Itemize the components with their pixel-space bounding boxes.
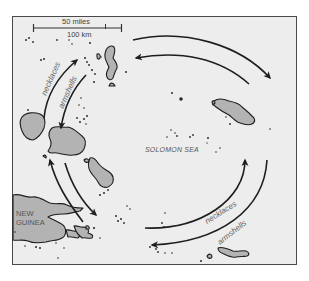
island-central [48,127,85,156]
island-west [20,113,45,140]
solomon-sea-label: SOLOMON SEA [145,146,199,153]
route-label-armshells-right: armshells [216,218,249,246]
scale-label-km: 100 km [67,30,92,39]
route-outer-top [133,36,270,78]
new-guinea-label-line1: NEW [16,209,34,218]
new-guinea-label-line2: GUINEA [16,218,45,227]
island-southeast [218,247,249,257]
route-inner-right [145,160,245,228]
scale-label-miles: 50 miles [62,17,90,26]
island-lower-middle [89,158,114,187]
scale-bar: 50 miles 100 km [33,17,122,39]
kula-ring-map: 50 miles 100 km NEW GUINEA [0,0,309,281]
island-north [105,46,117,80]
route-outer-right [152,160,267,245]
island-east [213,99,255,125]
route-inner-top [136,55,249,84]
